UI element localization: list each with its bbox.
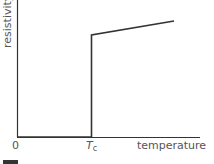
resistivity-curve — [18, 21, 175, 137]
tc-main: T — [86, 139, 93, 152]
x-axis-label: temperature — [137, 140, 206, 151]
tc-subscript: c — [93, 144, 97, 153]
y-axis-label: resistivity — [2, 0, 13, 48]
critical-temperature-label: Tc — [86, 140, 97, 153]
origin-label: 0 — [12, 140, 19, 151]
figure-marker — [3, 160, 18, 164]
